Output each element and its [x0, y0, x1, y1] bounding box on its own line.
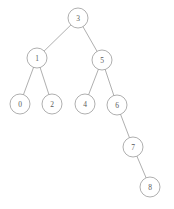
tree-node-4[interactable]: 4	[75, 94, 95, 114]
tree-node-label-3: 3	[76, 14, 80, 23]
tree-node-3[interactable]: 3	[68, 8, 88, 28]
tree-node-label-8: 8	[148, 183, 152, 192]
tree-diagram-svg: 315024678	[0, 0, 174, 209]
tree-node-5[interactable]: 5	[92, 50, 112, 70]
tree-node-label-5: 5	[100, 56, 104, 65]
node-layer: 315024678	[10, 8, 160, 197]
tree-node-6[interactable]: 6	[107, 95, 127, 115]
tree-diagram-canvas: 315024678	[0, 0, 174, 209]
tree-node-label-2: 2	[50, 100, 54, 109]
tree-node-label-7: 7	[131, 143, 135, 152]
tree-node-0[interactable]: 0	[10, 94, 30, 114]
tree-node-8[interactable]: 8	[140, 177, 160, 197]
tree-node-7[interactable]: 7	[123, 137, 143, 157]
tree-node-1[interactable]: 1	[27, 48, 47, 68]
tree-node-label-4: 4	[83, 100, 87, 109]
tree-node-2[interactable]: 2	[42, 94, 62, 114]
tree-node-label-1: 1	[35, 54, 39, 63]
tree-node-label-6: 6	[115, 101, 119, 110]
tree-node-label-0: 0	[18, 100, 22, 109]
